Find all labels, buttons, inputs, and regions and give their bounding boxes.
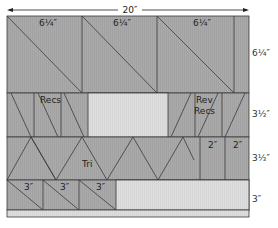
rev-recs-label-line1: Rev <box>196 95 213 105</box>
total-width-label: 20″ <box>123 5 138 15</box>
row-4 <box>7 180 249 210</box>
tri-label: Tri <box>81 159 92 169</box>
bottom-strip <box>7 210 249 217</box>
row-3-height-label: 3½″ <box>252 153 270 163</box>
row-1-piece-3-label: 6¼″ <box>193 18 211 28</box>
row-1-piece-1-label: 6¼″ <box>39 18 57 28</box>
recs-label: Recs <box>40 95 61 105</box>
row-4-piece-1-label: 3″ <box>24 182 34 192</box>
row-1-height-label: 6¼″ <box>252 48 270 58</box>
row-2-height-label: 3½″ <box>252 109 270 119</box>
row-3-square-2-label: 2″ <box>233 140 243 150</box>
row-4-piece-2-label: 3″ <box>60 182 70 192</box>
row-3-square-1-label: 2″ <box>208 140 218 150</box>
row-4-height-label: 3″ <box>252 194 262 204</box>
row-1-piece-2-label: 6¼″ <box>113 18 131 28</box>
rev-recs-label-line2: Recs <box>194 106 215 116</box>
quilt-cutting-diagram: 20″ 6¼″ 6¼″ 6¼″ 6¼″ Recs Rev Recs 3½″ <box>0 0 278 228</box>
row-4-piece-3-label: 3″ <box>96 182 106 192</box>
